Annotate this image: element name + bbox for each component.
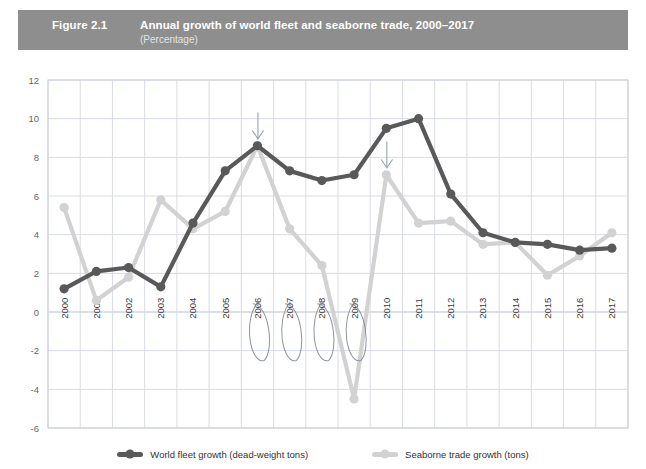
y-axis-tick-label: 10 [28,113,39,124]
data-point [156,282,165,291]
data-point [350,394,359,403]
legend-label-world-fleet: World fleet growth (dead-weight tons) [150,449,308,460]
data-point [317,261,326,270]
y-axis-tick-label: -4 [31,384,39,395]
x-axis-tick-label-2012: 2012 [445,298,456,319]
y-axis-tick-label: 0 [34,307,39,318]
data-point [543,240,552,249]
data-point [92,267,101,276]
data-point [511,238,520,247]
data-point [60,284,69,293]
legend-item-world-fleet: World fleet growth (dead-weight tons) [117,449,308,460]
legend-swatch-world-fleet [117,452,143,457]
y-axis-tick-label: -6 [31,423,39,434]
x-axis-tick-label-2002: 2002 [123,298,134,319]
x-axis-tick-label-2011: 2011 [413,298,424,318]
x-axis-tick-label-2013: 2013 [477,298,488,319]
x-axis-tick-label-2010: 2010 [381,298,392,319]
x-axis-tick-label-2014: 2014 [510,298,521,319]
x-axis-tick-label-2017: 2017 [606,298,617,319]
x-axis-tick-label-2015: 2015 [542,298,553,319]
legend-swatch-seaborne-trade [372,452,398,457]
data-point [221,166,230,175]
data-point [607,228,616,237]
grid-layer [48,80,628,428]
y-axis-tick-label: 12 [28,75,39,86]
data-point [543,271,552,280]
data-point [92,296,101,305]
data-point [124,273,133,282]
data-point [285,166,294,175]
data-point [350,170,359,179]
y-axis-tick-label: 8 [34,152,39,163]
line-chart-svg: 121086420-2-4-6 200020012002200320042005… [0,0,646,469]
data-point [414,114,423,123]
x-axis-tick-label-2003: 2003 [155,298,166,319]
data-point [156,195,165,204]
x-axis-tick-label-2016: 2016 [574,298,585,319]
y-axis-tick-label: 4 [34,229,39,240]
data-point [317,176,326,185]
x-axis-tick-label-2000: 2000 [59,298,70,319]
x-axis-tick-label-2005: 2005 [220,298,231,319]
data-point [60,203,69,212]
data-point [478,240,487,249]
legend-label-seaborne-trade: Seaborne trade growth (tons) [405,449,529,460]
data-point [478,228,487,237]
data-point [446,217,455,226]
data-point [221,207,230,216]
data-point [188,218,197,227]
data-point [446,189,455,198]
data-point [382,124,391,133]
data-point [253,141,262,150]
legend-item-seaborne-trade: Seaborne trade growth (tons) [372,449,529,460]
data-point [575,246,584,255]
data-point [607,244,616,253]
chart-legend: World fleet growth (dead-weight tons) Se… [0,444,646,464]
data-point [124,263,133,272]
figure-container: Figure 2.1 Annual growth of world fleet … [0,0,646,469]
data-point [285,224,294,233]
x-axis-tick-label-2004: 2004 [187,298,198,319]
chart-area: 121086420-2-4-6 200020012002200320042005… [0,0,646,469]
y-axis-tick-labels: 121086420-2-4-6 [28,75,39,434]
y-axis-tick-label: 6 [34,191,39,202]
data-point [414,218,423,227]
y-axis-tick-label: -2 [31,345,39,356]
y-axis-tick-label: 2 [34,268,39,279]
data-point [382,170,391,179]
